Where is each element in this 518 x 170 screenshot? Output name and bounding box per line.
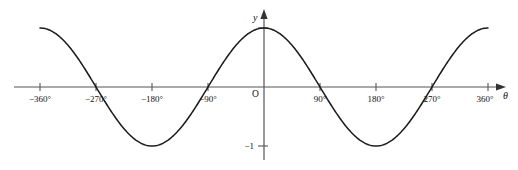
graph-canvas [0,0,518,170]
y-axis-label: y [253,13,257,23]
x-tick-label-minus-360: −360° [29,95,51,104]
cosine-graph-figure: −360° −270° −180° −90° 90° 180° 270° 360… [0,0,518,170]
y-tick-label-minus-1: −1 [244,142,254,151]
x-tick-label-minus-90: −90° [199,95,217,104]
x-tick-label-270: 270° [423,95,440,104]
y-axis [260,9,267,160]
x-tick-label-90: 90° [314,95,327,104]
x-tick-label-180: 180° [367,95,384,104]
x-tick-label-minus-270: −270° [85,95,107,104]
x-axis-label-theta: θ [503,91,508,101]
x-tick-label-360: 360° [476,95,493,104]
origin-label: O [252,90,259,100]
x-tick-label-minus-180: −180° [141,95,163,104]
